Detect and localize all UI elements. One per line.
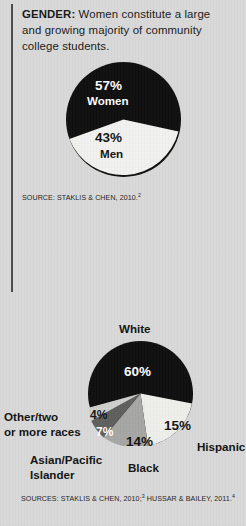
race-black-label: Black xyxy=(128,461,159,476)
gender-pie-chart xyxy=(66,62,181,177)
race-source-note: SOURCES: STAKLIS & CHEN, 2010;3 HUSSAR &… xyxy=(21,493,235,503)
race-source-text-2: HUSSAR & BAILEY, 2011. xyxy=(145,495,232,503)
race-asian-label: Asian/Pacific Islander xyxy=(30,453,102,482)
gender-women-label: Women xyxy=(87,94,129,107)
race-hispanic-percent: 15% xyxy=(164,418,191,433)
gender-men-percent: 43% xyxy=(95,130,122,145)
gender-source-note: SOURCE: STAKLIS & CHEN, 2010.2 xyxy=(22,192,141,202)
gender-source-text: SOURCE: STAKLIS & CHEN, 2010. xyxy=(22,194,138,202)
gender-headline-lead: GENDER: xyxy=(22,8,75,20)
race-white-percent: 60% xyxy=(124,364,151,379)
section-accent-rule xyxy=(11,4,13,292)
race-other-label-line1: Other/two xyxy=(4,410,58,423)
gender-women-percent: 57% xyxy=(95,78,122,93)
race-other-label-line2: or more races xyxy=(4,425,81,438)
race-other-label: Other/two or more races xyxy=(4,410,81,439)
race-asian-label-line2: Islander xyxy=(30,468,74,481)
race-asian-label-line1: Asian/Pacific xyxy=(30,453,102,466)
race-black-percent: 14% xyxy=(126,434,153,449)
race-source-footnote-marker-2: 4 xyxy=(232,493,235,499)
race-asian-percent: 7% xyxy=(96,425,113,439)
race-hispanic-label: Hispanic xyxy=(197,440,245,455)
race-other-percent: 4% xyxy=(90,408,107,422)
race-source-text-1: SOURCES: STAKLIS & CHEN, 2010; xyxy=(21,495,142,503)
gender-men-label: Men xyxy=(100,147,123,160)
gender-source-footnote-marker: 2 xyxy=(138,192,141,198)
race-white-label: White xyxy=(119,322,151,335)
gender-headline: GENDER: Women constitute a large and gro… xyxy=(22,6,232,55)
